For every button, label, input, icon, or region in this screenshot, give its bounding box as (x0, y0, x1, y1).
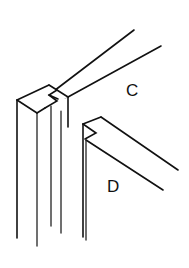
drawing-canvas: C D (0, 0, 189, 268)
joinery-diagram: C D (0, 0, 189, 268)
label-lower-rail-d: D (107, 177, 119, 196)
label-top-rail-c: C (126, 81, 138, 100)
